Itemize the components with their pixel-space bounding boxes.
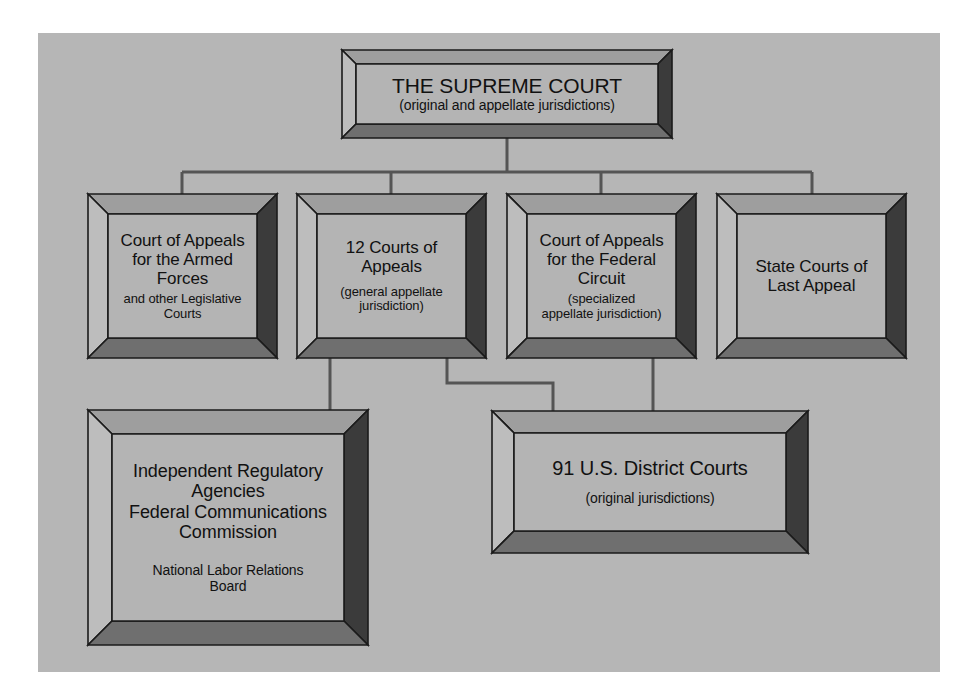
- node-twelve-courts-of-appeals: 12 Courts of Appeals(general appellate j…: [317, 214, 466, 338]
- node-label-main: THE SUPREME COURT: [392, 74, 622, 98]
- node-court-appeals-federal-circuit: Court of Appeals for the Federal Circuit…: [527, 214, 676, 338]
- node-us-district-courts: 91 U.S. District Courts(original jurisdi…: [514, 433, 786, 531]
- diagram-canvas: THE SUPREME COURT(original and appellate…: [0, 0, 976, 697]
- node-state-courts-last-appeal: State Courts of Last Appeal: [737, 214, 886, 338]
- node-label-main: 12 Courts of Appeals: [346, 238, 437, 277]
- node-supreme-court: THE SUPREME COURT(original and appellate…: [356, 64, 658, 124]
- node-label-sub: (original and appellate jurisdictions): [399, 98, 615, 114]
- node-label-sub: (specialized appellate jurisdiction): [542, 292, 662, 322]
- node-label-sub: (general appellate jurisdiction): [340, 285, 442, 315]
- node-label-main: Court of Appeals for the Federal Circuit: [539, 231, 663, 289]
- node-label-main: Independent Regulatory Agencies Federal …: [129, 461, 327, 543]
- node-label-sub: National Labor Relations Board: [153, 563, 304, 595]
- node-label-main: Court of Appeals for the Armed Forces: [120, 231, 244, 289]
- node-independent-regulatory-agencies: Independent Regulatory Agencies Federal …: [112, 434, 344, 621]
- node-label-sub: and other Legislative Courts: [124, 292, 242, 322]
- node-court-appeals-armed-forces: Court of Appeals for the Armed Forcesand…: [108, 214, 257, 338]
- node-label-sub: (original jurisdictions): [585, 491, 714, 507]
- node-label-main: State Courts of Last Appeal: [756, 257, 868, 296]
- node-label-main: 91 U.S. District Courts: [552, 457, 748, 480]
